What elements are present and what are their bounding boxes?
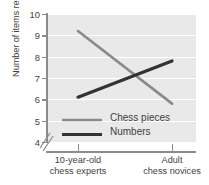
y-tick-label: 6 [6, 94, 40, 105]
x-tick-label-line: chess experts [35, 166, 121, 177]
y-tick-label: 10 [6, 9, 40, 20]
gridline [48, 14, 196, 15]
axis-break-icon [38, 132, 56, 152]
x-tick-label-line: Adult [129, 155, 209, 166]
x-tick-mark [172, 144, 173, 152]
gridline [48, 57, 196, 58]
legend-label: Chess pieces [110, 112, 170, 123]
x-tick-label-line: 10-year-old [35, 155, 121, 166]
x-tick-mark [78, 144, 79, 152]
x-tick-label-group: 10-year-old chess experts [35, 155, 121, 178]
y-tick-mark [42, 121, 47, 122]
gridline [48, 35, 196, 36]
y-tick-label: 4 [6, 137, 40, 148]
y-tick-label: 8 [6, 51, 40, 62]
legend-swatch-numbers [62, 132, 102, 137]
legend-label: Numbers [110, 126, 151, 137]
gridline [48, 78, 196, 79]
x-tick-label-group: Adult chess novices [129, 155, 209, 178]
y-tick-mark [42, 57, 47, 58]
x-tick-label-line: chess novices [129, 166, 209, 177]
x-axis-line [46, 151, 196, 153]
chart-container: Number of items recalled 10 9 8 7 6 5 4 [0, 0, 209, 185]
y-tick-label: 5 [6, 115, 40, 126]
y-tick-mark [42, 99, 47, 100]
y-tick-label: 9 [6, 30, 40, 41]
y-tick-mark [42, 14, 47, 15]
y-tick-label: 7 [6, 73, 40, 84]
gridline [48, 99, 196, 100]
y-tick-mark [42, 35, 47, 36]
legend-swatch-chess-pieces [62, 118, 102, 122]
y-tick-mark [42, 78, 47, 79]
